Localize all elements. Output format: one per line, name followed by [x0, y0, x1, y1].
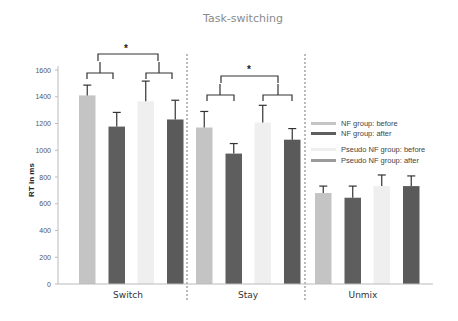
y-tick-label: 1000	[35, 147, 51, 154]
bar-nf-after-unmix	[345, 198, 362, 284]
category-labels: Switch Stay Unmix	[113, 290, 378, 300]
y-tick-label: 1600	[35, 67, 51, 74]
legend-label-nf-before: NF group: before	[341, 119, 398, 128]
y-tick-label: 600	[39, 200, 51, 207]
bar-pseudo-after-unmix	[403, 186, 420, 284]
bar-nf-before-stay	[196, 128, 213, 284]
legend-swatch-pseudo-before	[311, 148, 336, 151]
y-axis: 02004006008001000120014001600	[35, 66, 58, 288]
y-tick-label: 200	[39, 254, 51, 261]
y-tick-label: 400	[39, 227, 51, 234]
legend-swatch-nf-after	[311, 132, 336, 135]
legend-label-nf-after: NF group: after	[341, 129, 392, 138]
chart-title: Task-switching	[202, 12, 283, 25]
bracket-stay-main	[221, 76, 278, 83]
bar-pseudo-after-stay	[284, 140, 301, 284]
legend-swatch-pseudo-after	[311, 159, 336, 162]
category-label-unmix: Unmix	[349, 290, 379, 300]
y-tick-label: 1200	[35, 120, 51, 127]
legend-label-pseudo-before: Pseudo NF group: before	[341, 145, 425, 154]
y-axis-label: RT in ms	[27, 163, 36, 197]
category-label-stay: Stay	[238, 290, 259, 300]
y-tick-label: 0	[47, 281, 51, 288]
legend-label-pseudo-after: Pseudo NF group: after	[341, 156, 419, 165]
bar-pseudo-before-switch	[138, 101, 155, 284]
bar-nf-before-unmix	[315, 193, 332, 284]
bar-pseudo-before-unmix	[374, 186, 391, 284]
bar-nf-after-stay	[226, 154, 243, 284]
y-tick-label: 1400	[35, 93, 51, 100]
bar-nf-after-switch	[109, 127, 126, 284]
legend: NF group: before NF group: after Pseudo …	[311, 119, 425, 165]
task-switching-chart: Task-switching 0200400600800100012001400…	[0, 0, 458, 321]
significance-star-switch: *	[124, 43, 128, 54]
significance-star-stay: *	[247, 64, 251, 75]
bracket-switch-pseudo	[146, 62, 172, 79]
bracket-stay-pseudo	[263, 84, 292, 101]
bracket-switch-nf	[87, 62, 113, 79]
bracket-stay-nf	[207, 84, 234, 101]
bar-nf-before-switch	[79, 95, 96, 284]
y-tick-label: 800	[39, 174, 51, 181]
bars	[79, 81, 420, 284]
significance-brackets	[87, 54, 292, 101]
category-label-switch: Switch	[113, 290, 143, 300]
bar-pseudo-after-switch	[167, 119, 184, 284]
bar-pseudo-before-stay	[255, 123, 272, 284]
bracket-switch-main	[98, 54, 158, 61]
legend-swatch-nf-before	[311, 122, 336, 125]
